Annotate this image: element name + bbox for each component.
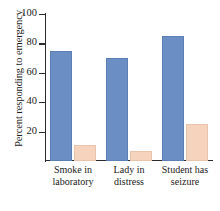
- x-axis-category-label-line: laboratory: [45, 176, 101, 188]
- bar-alone: [162, 36, 184, 161]
- bar-chart: Percent responding to emergency 20406080…: [0, 0, 220, 211]
- plot-area: [45, 14, 213, 161]
- y-axis-tick-label: 20: [27, 125, 38, 137]
- x-axis-category-label-line: Lady in: [101, 164, 157, 176]
- bar-group: [74, 145, 96, 161]
- y-axis-tick-label: 80: [27, 36, 38, 48]
- y-axis-tick-label: 60: [27, 66, 38, 78]
- y-axis-tick-label: 100: [21, 7, 37, 19]
- y-axis-title: Percent responding to emergency: [13, 4, 24, 154]
- bar-group: [130, 151, 152, 161]
- y-axis-tick-label: 40: [27, 95, 38, 107]
- x-axis-category-label-line: Smoke in: [45, 164, 101, 176]
- bar-alone: [50, 51, 72, 161]
- x-axis-category-label: Lady indistress: [101, 164, 157, 187]
- bar-alone: [106, 58, 128, 161]
- x-axis-category-label-line: Student has: [157, 164, 213, 176]
- x-axis-category-label: Student hasseizure: [157, 164, 213, 187]
- x-axis-category-label-line: seizure: [157, 176, 213, 188]
- bar-group: [186, 124, 208, 161]
- x-axis-category-label: Smoke inlaboratory: [45, 164, 101, 187]
- x-axis-category-label-line: distress: [101, 176, 157, 188]
